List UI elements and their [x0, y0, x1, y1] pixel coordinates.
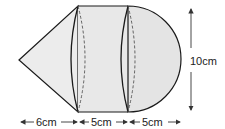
cone-length-label: 6cm: [36, 117, 57, 128]
cylinder-length-label: 5cm: [91, 117, 112, 128]
diameter-label: 10cm: [190, 55, 217, 68]
solid-shape: [19, 6, 181, 112]
hemisphere: [128, 6, 181, 112]
cone: [19, 6, 78, 112]
hemisphere-length-label: 5cm: [142, 117, 163, 128]
